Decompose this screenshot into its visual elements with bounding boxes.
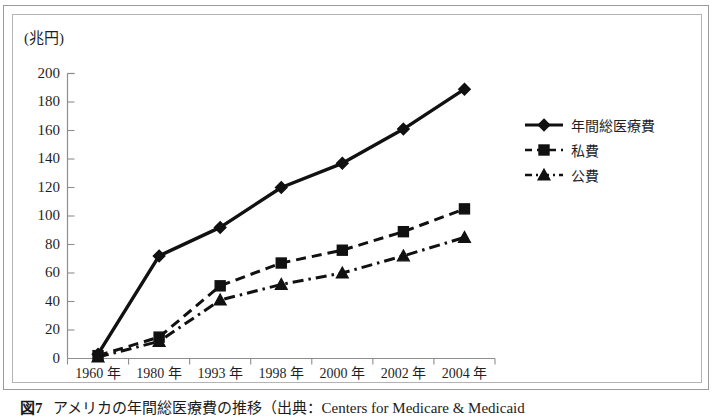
legend-item-2: 私費 bbox=[524, 137, 655, 162]
y-axis-tick-label: 160 bbox=[16, 123, 60, 138]
y-axis-tick-label: 40 bbox=[16, 294, 60, 309]
data-point-square bbox=[398, 227, 408, 237]
data-point-diamond bbox=[538, 119, 549, 130]
data-point-square bbox=[337, 245, 347, 255]
y-axis-tick-label: 200 bbox=[16, 66, 60, 81]
legend-marker-diamond-icon bbox=[524, 118, 564, 132]
x-axis-tick-label: 2002 年 bbox=[373, 367, 434, 381]
figure-caption-text: アメリカの年間総医療費の推移（出典：Centers for Medicare &… bbox=[53, 400, 525, 416]
y-axis-tick-label: 120 bbox=[16, 180, 60, 195]
y-axis-tick-label: 100 bbox=[16, 208, 60, 223]
y-axis-tick-label: 60 bbox=[16, 265, 60, 280]
chart-plot-area bbox=[0, 0, 719, 392]
y-axis-tick-label: 20 bbox=[16, 322, 60, 337]
data-point-triangle bbox=[458, 231, 470, 242]
x-axis-tick-label: 1980 年 bbox=[129, 367, 190, 381]
legend-marker-square-icon bbox=[524, 143, 564, 157]
x-axis-tick-label: 2004 年 bbox=[434, 367, 495, 381]
data-point-square bbox=[539, 145, 549, 155]
x-axis-tick-label: 1993 年 bbox=[190, 367, 251, 381]
x-axis-tick-label: 1960 年 bbox=[68, 367, 129, 381]
legend-marker-triangle-icon bbox=[524, 168, 564, 182]
legend-label: 公費 bbox=[571, 165, 599, 185]
legend-label: 年間総医療費 bbox=[571, 115, 655, 135]
data-point-square bbox=[215, 281, 225, 291]
figure-caption: 図7アメリカの年間総医療費の推移（出典：Centers for Medicare… bbox=[20, 396, 710, 417]
line-chart: (兆円) 020406080100120140160180200 1960 年1… bbox=[0, 0, 719, 392]
data-point-square bbox=[459, 204, 469, 214]
figure-page: (兆円) 020406080100120140160180200 1960 年1… bbox=[0, 0, 719, 420]
data-point-square bbox=[276, 258, 286, 268]
legend-label: 私費 bbox=[571, 140, 599, 160]
y-axis-tick-label: 0 bbox=[16, 351, 60, 366]
legend-item-3: 公費 bbox=[524, 162, 655, 187]
x-axis-tick-label: 1998 年 bbox=[251, 367, 312, 381]
chart-legend: 年間総医療費私費公費 bbox=[524, 112, 655, 187]
legend-item-1: 年間総医療費 bbox=[524, 112, 655, 137]
y-axis-tick-label: 140 bbox=[16, 151, 60, 166]
y-axis-tick-label: 80 bbox=[16, 237, 60, 252]
figure-caption-number: 図7 bbox=[20, 400, 43, 416]
y-axis-tick-label: 180 bbox=[16, 94, 60, 109]
x-axis-tick-label: 2000 年 bbox=[312, 367, 373, 381]
